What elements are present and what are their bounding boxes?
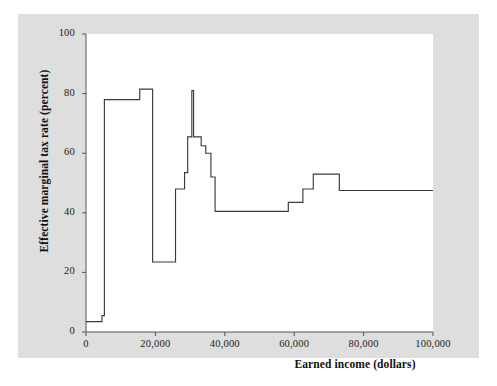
x-tick-label: 0	[56, 338, 116, 349]
x-tick-label: 40,000	[195, 338, 255, 349]
x-tick-label: 100,000	[403, 338, 463, 349]
y-axis-label: Effective marginal tax rate (percent)	[38, 31, 50, 291]
y-axis-ticks	[82, 34, 86, 332]
tax-rate-step-line	[86, 89, 433, 321]
x-tick-label: 80,000	[334, 338, 394, 349]
axes-group	[82, 34, 433, 336]
x-axis-label: Earned income (dollars)	[240, 358, 470, 370]
x-tick-label: 20,000	[125, 338, 185, 349]
figure-canvas: 020406080100020,00040,00060,00080,000100…	[0, 0, 497, 386]
x-axis-ticks	[86, 332, 433, 336]
x-tick-label: 60,000	[264, 338, 324, 349]
y-tick-label: 0	[45, 325, 75, 336]
